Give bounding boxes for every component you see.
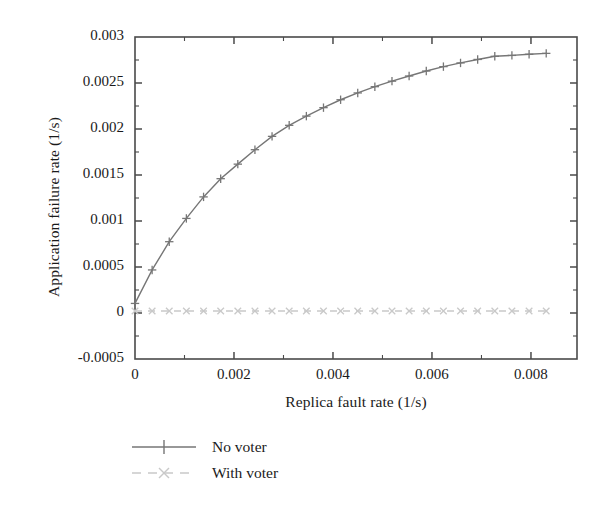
y-tick-label: 0.003 [28,27,124,44]
legend-swatch-no-voter [128,437,200,457]
chart-legend: No voter With voter [128,434,388,486]
chart-figure: Application failure rate (1/s) Replica f… [0,0,598,509]
legend-label-no-voter: No voter [212,438,267,456]
legend-swatch-with-voter [128,463,200,483]
y-tick-label: 0 [28,303,124,320]
y-tick-label: -0.0005 [28,349,124,366]
legend-label-with-voter: With voter [212,464,278,482]
y-tick-label: 0.002 [28,119,124,136]
y-tick-label: 0.0015 [28,165,124,182]
x-tick-label: 0.002 [189,366,279,383]
y-tick-label: 0.0005 [28,257,124,274]
series-line-with-voter [132,308,550,315]
y-tick-label: 0.0025 [28,73,124,90]
x-tick-label: 0.004 [288,366,378,383]
x-tick-label: 0 [90,366,180,383]
legend-item-with-voter: With voter [128,460,388,486]
x-tick-label: 0.006 [387,366,477,383]
series-line-no-voter [131,49,551,307]
y-tick-label: 0.001 [28,211,124,228]
x-tick-label: 0.008 [486,366,576,383]
legend-item-no-voter: No voter [128,434,388,460]
